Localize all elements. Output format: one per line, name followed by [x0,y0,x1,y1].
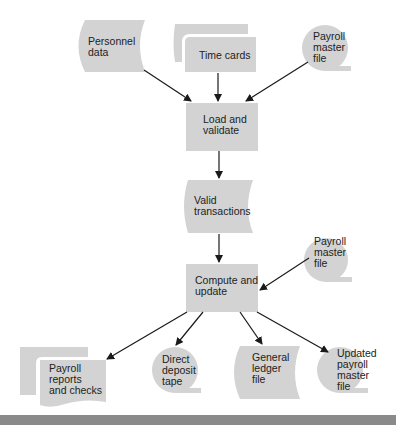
general-ledger-label: General ledger file [252,352,289,385]
arrow-compute-to-deposit [176,312,203,345]
payroll-reports-label: Payroll reports and checks [49,363,102,396]
direct-deposit-label: Direct deposit tape [162,354,196,387]
updated-master-label: Updated payroll master file [337,348,377,392]
time-cards-shape [174,24,257,72]
arrow-personnel-to-load [144,70,191,101]
payroll-master-top-label: Payroll master file [313,31,345,64]
time-cards-label: Time cards [199,50,251,61]
payroll-master-mid-label: Payroll master file [314,236,346,269]
personnel-data-label: Personnel data [88,36,135,58]
compute-update-label: Compute and update [195,275,258,297]
valid-transactions-label: Valid transactions [194,195,251,217]
arrow-compute-to-ledger [240,312,262,344]
arrow-master2-to-compute [260,258,309,290]
bottom-gray-band [0,415,396,425]
load-validate-label: Load and validate [203,114,247,136]
